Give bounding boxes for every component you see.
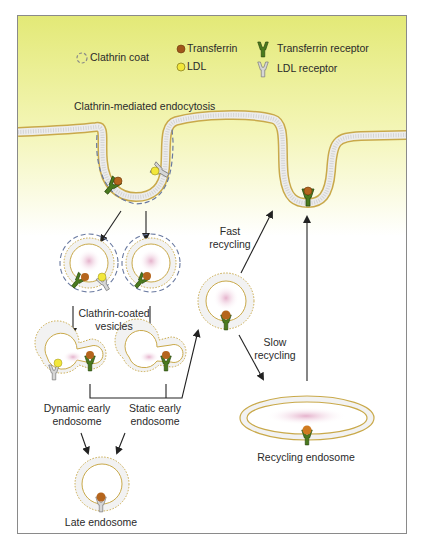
fast-line2: recycling: [205, 238, 255, 251]
dynamic-line1: Dynamic early: [37, 402, 117, 415]
legend-transferrin-label: Transferrin: [187, 42, 237, 55]
recycling-endosome-label: Recycling endosome: [256, 451, 356, 464]
legend-clathrin-coat-label: Clathrin coat: [90, 51, 149, 64]
fast-line1: Fast: [205, 225, 255, 238]
dynamic-line2: endosome: [37, 415, 117, 428]
legend-ldl-icon: [177, 63, 185, 71]
legend-transferrin-icon: [177, 45, 185, 53]
static-line1: Static early: [120, 402, 190, 415]
slow-recycling-label: Slow recycling: [250, 336, 300, 362]
late-endosome-label: Late endosome: [61, 516, 141, 529]
ccv-line2: vesicles: [74, 320, 154, 333]
legend-ldl-receptor-label: LDL receptor: [277, 62, 337, 75]
diagram-title: Clathrin-mediated endocytosis: [74, 100, 215, 113]
dynamic-early-endosome-label: Dynamic early endosome: [37, 402, 117, 428]
clathrin-coated-vesicles-label: Clathrin-coated vesicles: [74, 307, 154, 333]
slow-line2: recycling: [250, 349, 300, 362]
ccv-line1: Clathrin-coated: [74, 307, 154, 320]
legend-ldl-label: LDL: [187, 60, 206, 73]
static-early-endosome-label: Static early endosome: [120, 402, 190, 428]
legend-transferrin-receptor-label: Transferrin receptor: [277, 42, 369, 55]
static-line2: endosome: [120, 415, 190, 428]
fast-recycling-label: Fast recycling: [205, 225, 255, 251]
slow-line1: Slow: [250, 336, 300, 349]
